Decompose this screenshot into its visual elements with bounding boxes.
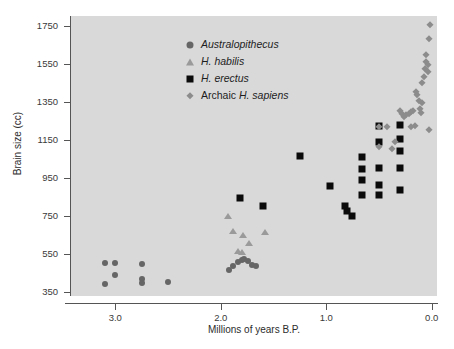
legend-marker-swatch xyxy=(183,89,197,103)
y-tick-label: 550 xyxy=(16,248,58,259)
data-point-circle-icon xyxy=(187,41,194,48)
y-tick-label: 750 xyxy=(16,210,58,221)
data-point-diamond-icon xyxy=(407,124,415,132)
y-tick-label: 1350 xyxy=(16,96,58,107)
x-tick-mark xyxy=(221,304,222,310)
x-axis-line xyxy=(65,303,438,304)
y-tick-label: 1550 xyxy=(16,58,58,69)
data-point-diamond-icon xyxy=(425,35,433,43)
data-point-square-icon xyxy=(187,75,194,82)
x-tick-mark xyxy=(326,304,327,310)
legend-item-h-habilis[interactable]: H. habilis xyxy=(183,53,343,70)
data-point-triangle-icon xyxy=(186,58,194,65)
data-point-diamond-icon xyxy=(388,146,396,154)
x-tick-label: 3.0 xyxy=(90,312,140,323)
legend-item-h-erectus[interactable]: H. erectus xyxy=(183,70,343,87)
data-point-diamond-icon xyxy=(423,51,431,59)
x-tick-label: 0.0 xyxy=(407,312,454,323)
data-point-diamond-icon xyxy=(426,21,434,29)
legend-item-australopithecus[interactable]: Australopithecus xyxy=(183,36,343,53)
data-point-diamond-icon xyxy=(384,124,392,132)
x-tick-label: 1.0 xyxy=(301,312,351,323)
data-point-diamond-icon xyxy=(375,124,383,132)
x-axis-label: Millions of years B.P. xyxy=(71,324,437,335)
legend-marker-swatch xyxy=(183,55,197,69)
x-tick-label: 2.0 xyxy=(196,312,246,323)
data-point-diamond-icon xyxy=(418,79,426,87)
data-point-diamond-icon xyxy=(186,92,194,100)
y-tick-label: 950 xyxy=(16,172,58,183)
legend-item-label: Archaic H. sapiens xyxy=(201,90,289,101)
data-point-diamond-icon xyxy=(425,127,433,135)
legend-item-label: H. erectus xyxy=(201,73,249,84)
legend-item-label: Australopithecus xyxy=(201,39,279,50)
x-tick-mark xyxy=(115,304,116,310)
legend-item-label: H. habilis xyxy=(201,56,244,67)
legend-marker-swatch xyxy=(183,72,197,86)
data-point-diamond-icon xyxy=(375,144,383,152)
brain-size-scatter-figure: Brain size (cc) Millions of years B.P. 3… xyxy=(0,0,454,349)
legend-item-archaic-h-sapiens[interactable]: Archaic H. sapiens xyxy=(183,87,343,104)
legend: AustralopithecusH. habilisH. erectusArch… xyxy=(183,36,343,104)
data-point-diamond-icon xyxy=(417,109,425,117)
data-point-diamond-icon xyxy=(418,99,426,107)
y-tick-label: 350 xyxy=(16,286,58,297)
y-tick-label: 1750 xyxy=(16,20,58,31)
legend-marker-swatch xyxy=(183,38,197,52)
x-tick-mark xyxy=(432,304,433,310)
plot-area: AustralopithecusH. habilisH. erectusArch… xyxy=(71,16,437,296)
y-tick-label: 1150 xyxy=(16,134,58,145)
data-point-diamond-icon xyxy=(391,138,399,146)
